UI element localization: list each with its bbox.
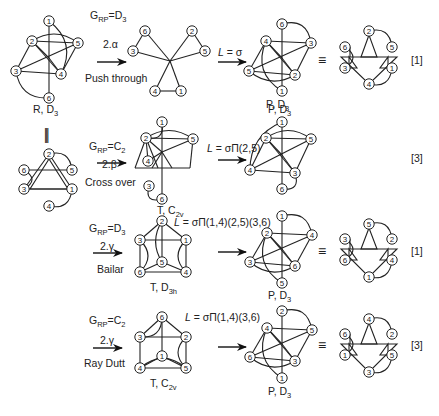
- node-3: 3: [245, 257, 255, 267]
- edge: [32, 41, 78, 43]
- svg-text:5: 5: [191, 135, 196, 144]
- node-2: 2: [261, 133, 271, 143]
- node-3: 3: [340, 63, 350, 73]
- svg-text:4: 4: [184, 268, 189, 277]
- graph-raydutt-intermediate: 632145: [135, 312, 191, 373]
- edge: [267, 328, 312, 330]
- node-5: 5: [387, 350, 397, 360]
- edge: [145, 31, 170, 61]
- node-2: 2: [187, 26, 197, 36]
- group-label-alpha: GRP=D3: [90, 9, 126, 26]
- node-6: 6: [290, 261, 300, 271]
- node-5: 5: [307, 325, 317, 335]
- node-1: 1: [157, 351, 167, 361]
- node-5: 5: [244, 66, 254, 76]
- svg-text:4: 4: [59, 70, 64, 79]
- edge: [250, 170, 295, 173]
- svg-text:4: 4: [248, 166, 253, 175]
- svg-text:6: 6: [280, 185, 285, 194]
- multiplicity-raydutt: [3]: [411, 339, 423, 351]
- svg-text:1: 1: [390, 64, 395, 73]
- svg-text:2: 2: [367, 27, 372, 36]
- node-5: 5: [277, 278, 287, 288]
- mechanism-label-raydutt: Ray Dutt: [84, 357, 125, 369]
- step-label-bailar: 2.γ: [100, 240, 114, 252]
- node-1: 1: [157, 117, 167, 127]
- node-5: 5: [67, 165, 77, 175]
- svg-text:3: 3: [22, 185, 27, 194]
- graph-edges: [16, 21, 78, 98]
- node-5: 5: [200, 46, 210, 56]
- svg-text:2: 2: [390, 330, 395, 339]
- graph-reactant-planar: 265314: [19, 149, 77, 211]
- node-6: 6: [340, 42, 350, 52]
- graphs-layer: 1253462653146235416435212653141254361254…: [11, 16, 397, 383]
- node-2: 2: [141, 133, 151, 143]
- step-label-beta: 2.β: [102, 158, 117, 170]
- product-label-beta: P, D3: [268, 103, 291, 120]
- node-4: 4: [150, 86, 160, 96]
- edge: [250, 262, 295, 266]
- labeling-raydutt: L = σΠ(1,4)(3,6): [185, 311, 260, 323]
- svg-text:6: 6: [343, 256, 348, 265]
- svg-text:2: 2: [184, 333, 189, 342]
- svg-text:6: 6: [160, 195, 165, 204]
- edge: [162, 152, 172, 168]
- node-5: 5: [306, 134, 316, 144]
- svg-text:6: 6: [248, 353, 253, 362]
- graph-edges: [250, 122, 311, 189]
- node-4: 4: [143, 156, 153, 166]
- svg-text:6: 6: [138, 268, 143, 277]
- svg-text:6: 6: [293, 262, 298, 271]
- svg-text:2: 2: [293, 71, 298, 80]
- node-6: 6: [140, 26, 150, 36]
- svg-text:6: 6: [47, 94, 52, 103]
- mechanism-label-alpha: Push through: [85, 72, 147, 84]
- graph-hex-gamma-bailar: 532641: [340, 219, 397, 282]
- node-1: 1: [44, 16, 54, 26]
- graph-edges: [341, 30, 397, 85]
- node-3: 3: [306, 38, 316, 48]
- node-1: 1: [67, 184, 77, 194]
- svg-text:4: 4: [138, 364, 143, 373]
- node-6: 6: [135, 267, 145, 277]
- edge: [133, 51, 170, 61]
- pendant-triangle: [361, 323, 377, 344]
- svg-text:5: 5: [203, 47, 208, 56]
- svg-text:5: 5: [310, 326, 315, 335]
- svg-text:5: 5: [184, 364, 189, 373]
- node-1: 1: [176, 86, 186, 96]
- mechanism-diagram: 1253462653146235416435212653141254361254…: [0, 0, 439, 416]
- edge-arc: [49, 21, 67, 74]
- intermediate-label-bailar: T, D3h: [150, 281, 177, 298]
- edge: [16, 71, 61, 74]
- pendant-triangle: [361, 35, 377, 57]
- node-3: 3: [135, 332, 145, 342]
- product-label-bailar: P, D3: [268, 289, 291, 306]
- svg-text:4: 4: [265, 324, 270, 333]
- mechanism-label-bailar: Bailar: [97, 263, 124, 275]
- edge: [16, 43, 78, 71]
- svg-text:1: 1: [280, 87, 285, 96]
- node-4: 4: [307, 230, 317, 240]
- node-4: 4: [135, 363, 145, 373]
- node-2: 2: [364, 26, 374, 36]
- node-6: 6: [19, 165, 29, 175]
- svg-text:6: 6: [280, 20, 285, 29]
- node-3: 3: [290, 168, 300, 178]
- group-label-beta: GRP=C2: [89, 140, 125, 157]
- product-label-raydutt: P, D3: [268, 385, 291, 402]
- svg-text:1: 1: [47, 17, 52, 26]
- node-6: 6: [340, 329, 350, 339]
- edge: [266, 138, 311, 139]
- node-3: 3: [19, 184, 29, 194]
- edge-arc: [262, 233, 282, 283]
- node-6: 6: [157, 194, 167, 204]
- edge-arc: [16, 71, 49, 98]
- multiplicity-bailar: [1]: [411, 245, 423, 257]
- node-6: 6: [44, 93, 54, 103]
- svg-text:6: 6: [143, 27, 148, 36]
- node-4: 4: [181, 267, 191, 277]
- node-2: 2: [290, 70, 300, 80]
- node-2: 2: [387, 234, 397, 244]
